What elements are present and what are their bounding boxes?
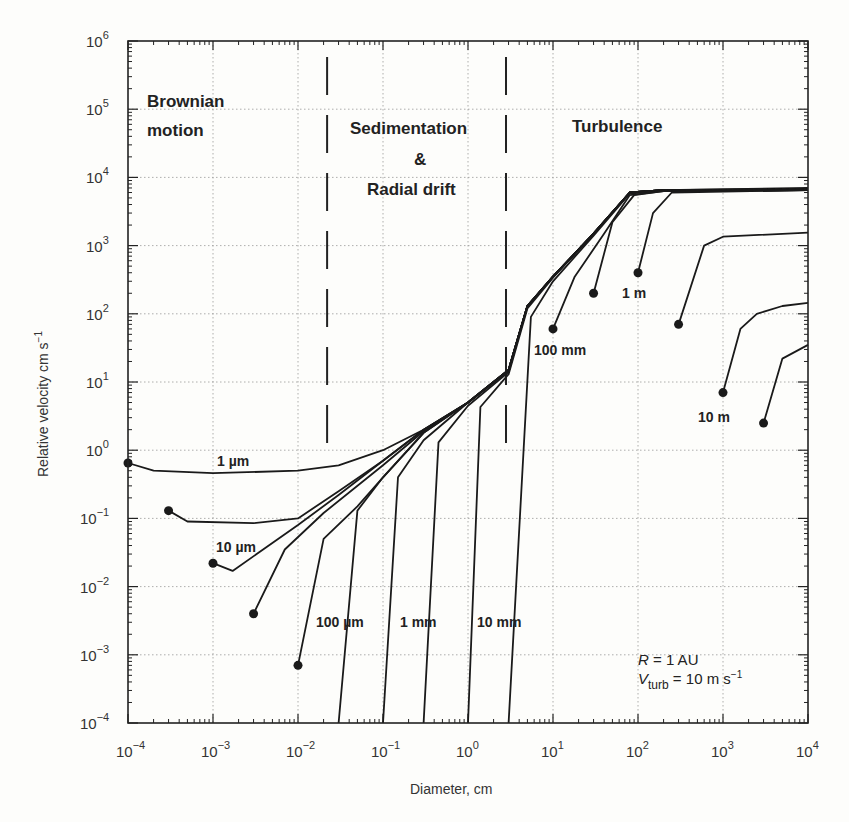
curve-start-marker: [209, 559, 218, 568]
velocity-curve: [594, 190, 808, 293]
curve-label-10mm: 10 mm: [477, 614, 521, 630]
y-tick-label: 100: [86, 438, 109, 459]
y-tick-label: 10−2: [80, 575, 109, 596]
curve-start-marker: [759, 419, 768, 428]
velocity-curve: [638, 190, 808, 273]
velocity-curve: [509, 190, 808, 723]
y-tick-label: 10−4: [80, 711, 109, 732]
annotation-r-value: = 1 AU: [649, 651, 699, 668]
velocity-curve: [169, 189, 808, 523]
annotation-r-symbol: R: [638, 651, 649, 668]
x-tick-label: 101: [541, 739, 564, 760]
annotation-v-value: = 10 m s: [669, 670, 731, 687]
annotation-v-subscript: turb: [648, 678, 669, 692]
grid-lines: [128, 41, 808, 723]
x-tick-label: 104: [796, 739, 819, 760]
x-tick-label: 100: [456, 739, 479, 760]
x-axis-label: Diameter, cm: [410, 781, 492, 797]
curve-label-100um: 100 µm: [316, 614, 364, 630]
curve-start-marker: [164, 506, 173, 515]
velocity-curve: [424, 190, 808, 723]
x-tick-label: 10−2: [286, 739, 315, 760]
annotation-v-exponent: −1: [731, 669, 743, 680]
y-axis-label: Relative velocity cm s−1: [33, 331, 51, 477]
region-label-sed-3: Radial drift: [367, 180, 456, 199]
curve-start-marker: [294, 661, 303, 670]
y-tick-label: 106: [86, 29, 109, 50]
y-tick-label: 101: [86, 370, 109, 391]
curve-label-10m: 10 m: [698, 409, 730, 425]
region-label-sed-2: &: [414, 150, 426, 169]
curve-label-100mm: 100 mm: [534, 342, 586, 358]
y-tick-label: 103: [86, 234, 109, 255]
y-axis-label-exponent: −1: [33, 331, 44, 343]
velocity-curve: [764, 345, 808, 423]
annotation-vturb: Vturb = 10 m s−1: [638, 669, 743, 692]
annotation-r: R = 1 AU: [638, 651, 698, 668]
region-label-turbulence: Turbulence: [572, 117, 662, 136]
curve-start-marker: [634, 268, 643, 277]
region-boundaries: [327, 57, 506, 443]
velocity-curve: [254, 190, 808, 614]
curve-start-marker: [249, 609, 258, 618]
curve-start-marker: [719, 388, 728, 397]
x-tick-label: 102: [626, 739, 649, 760]
x-tick-label: 10−1: [371, 739, 400, 760]
y-tick-label: 10−1: [80, 506, 109, 527]
x-tick-label: 10−3: [201, 739, 230, 760]
curve-label-1um: 1 µm: [217, 453, 249, 469]
region-label-brownian-2: motion: [147, 121, 204, 140]
chart: 10−410−310−210−110010110210310410−410−31…: [0, 0, 849, 822]
curve-label-1mm: 1 mm: [400, 614, 437, 630]
curve-label-10um: 10 µm: [216, 539, 256, 555]
y-tick-label: 104: [86, 165, 109, 186]
y-axis-label-text: Relative velocity cm s: [35, 342, 51, 477]
curve-start-marker: [589, 289, 598, 298]
velocity-curve: [679, 233, 808, 325]
velocity-curve: [723, 303, 808, 393]
y-tick-label: 10−3: [80, 643, 109, 664]
curve-label-1m: 1 m: [622, 285, 646, 301]
region-label-brownian-1: Brownian: [147, 92, 224, 111]
region-label-sed-1: Sedimentation: [350, 119, 467, 138]
y-tick-label: 102: [86, 302, 109, 323]
x-tick-label: 10−4: [116, 739, 145, 760]
velocity-curve: [213, 189, 808, 571]
y-tick-label: 105: [86, 97, 109, 118]
curve-start-marker: [549, 324, 558, 333]
velocity-curve: [383, 190, 808, 723]
velocity-curve: [553, 190, 808, 329]
curve-start-marker: [674, 320, 683, 329]
x-tick-label: 103: [711, 739, 734, 760]
velocity-curve: [339, 190, 808, 723]
